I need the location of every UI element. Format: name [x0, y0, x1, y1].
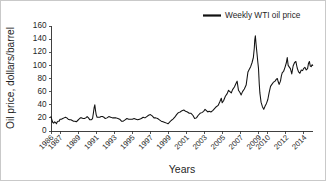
y-tick-label: 0	[42, 126, 47, 135]
y-tick-label: 140	[33, 34, 47, 43]
x-tick-label: 1993	[100, 133, 118, 151]
y-tick-label: 160	[33, 21, 47, 30]
y-axis-title: Oil price, dollars/barrel	[5, 27, 16, 129]
x-tick-label: 2001	[173, 133, 191, 151]
x-tick-label: 2012	[272, 133, 290, 151]
y-tick-label: 120	[33, 47, 47, 56]
y-tick-label: 40	[37, 100, 47, 109]
x-tick-label: 1991	[82, 133, 100, 151]
x-tick-label: 1989	[64, 133, 82, 151]
x-tick-label: 1997	[136, 133, 154, 151]
plot-background	[51, 26, 313, 131]
x-tick-label: 2003	[191, 133, 209, 151]
y-tick-label: 100	[33, 61, 47, 70]
x-tick-label: 2007	[227, 133, 245, 151]
y-tick-label: 20	[37, 113, 47, 122]
legend-label-weekly-wti-oil-price: Weekly WTI oil price	[225, 10, 301, 20]
x-tick-label: 1999	[155, 133, 173, 151]
x-tick-label: 2014	[290, 133, 308, 151]
y-tick-label: 80	[37, 74, 47, 83]
x-tick-label: 1995	[118, 133, 136, 151]
x-tick-label: 2005	[209, 133, 227, 151]
chart-figure: 020406080100120140160 198619871989199119…	[0, 0, 326, 181]
oil-price-line-chart: 020406080100120140160 198619871989199119…	[1, 1, 326, 181]
y-tick-label: 60	[37, 87, 47, 96]
x-axis: 1986198719891991199319951997199920012003…	[37, 131, 313, 151]
y-axis: 020406080100120140160	[33, 21, 51, 135]
x-axis-title: Years	[169, 163, 195, 175]
legend: Weekly WTI oil price	[203, 10, 301, 20]
